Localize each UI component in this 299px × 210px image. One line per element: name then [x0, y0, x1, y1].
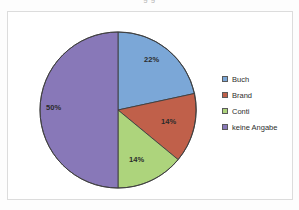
legend-label-keine-angabe: keine Angabe [232, 123, 277, 132]
clipped-chart-title: g g [0, 0, 299, 5]
slice-label-buch: 22% [144, 55, 159, 64]
slice-label-keine-angabe: 50% [46, 103, 61, 112]
legend-label-buch: Buch [232, 75, 249, 84]
legend-item-keine-angabe[interactable]: keine Angabe [222, 119, 294, 135]
legend-swatch-icon-buch [222, 76, 228, 82]
legend-swatch-icon-conti [222, 108, 228, 114]
plot-area: 22% 14% 14% 50% Buch Brand Conti keine A… [8, 12, 294, 201]
legend-label-conti: Conti [232, 107, 250, 116]
chart-frame: 22% 14% 14% 50% Buch Brand Conti keine A… [7, 11, 293, 200]
legend: Buch Brand Conti keine Angabe [222, 71, 294, 135]
slice-label-conti: 14% [129, 155, 144, 164]
legend-item-buch[interactable]: Buch [222, 71, 294, 87]
pie-chart [38, 30, 198, 190]
legend-swatch-icon-keine-angabe [222, 124, 228, 130]
legend-label-brand: Brand [232, 91, 252, 100]
legend-swatch-icon-brand [222, 92, 228, 98]
legend-item-brand[interactable]: Brand [222, 87, 294, 103]
slice-label-brand: 14% [161, 117, 176, 126]
legend-item-conti[interactable]: Conti [222, 103, 294, 119]
